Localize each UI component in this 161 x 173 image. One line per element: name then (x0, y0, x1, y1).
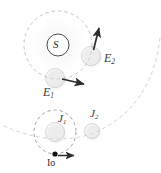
earth-position-2-label: E2 (104, 52, 115, 65)
diagram-svg (0, 0, 161, 173)
sun-label: S (53, 39, 59, 50)
jupiter-position-2-label: J2 (90, 108, 98, 120)
earth-2-velocity-arrow (94, 28, 100, 50)
io-label: Io (47, 158, 55, 168)
io-moon (52, 151, 57, 156)
earth-1-velocity-arrow (62, 79, 84, 84)
jupiter-position-1-label: J1 (58, 113, 66, 125)
figure-canvas: S E1 E2 J1 J2 Io (0, 0, 161, 173)
earth-position-1-label: E1 (43, 86, 54, 99)
